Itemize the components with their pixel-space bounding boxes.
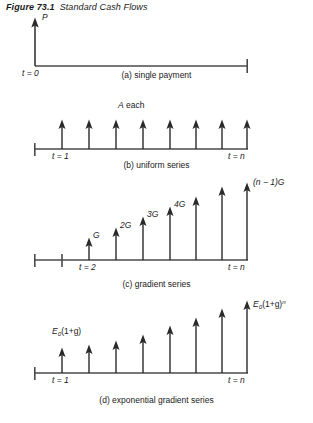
cashflow-arrows-uniform [59, 120, 251, 150]
cashflow-diagram-d [0, 296, 313, 386]
cashflow-diagram-a [0, 14, 313, 76]
figure-name: Standard Cash Flows [60, 2, 148, 12]
label-n-minus-1-G: (n − 1)G [253, 177, 284, 187]
label-4G: 4G [174, 199, 185, 209]
cashflow-diagram-c [0, 180, 313, 272]
caption-a: (a) single payment [0, 70, 313, 80]
label-3G: 3G [147, 209, 158, 219]
time-label-start-d: t = 1 [52, 375, 69, 385]
figure-container: Figure 73.1Standard Cash Flows P t = 0 (… [0, 0, 313, 423]
cashflow-diagram-b [0, 104, 313, 160]
caption-b: (b) uniform series [0, 160, 313, 170]
caption-c: (c) gradient series [0, 279, 313, 289]
label-E0-1-plus-g: E0(1+g) [52, 326, 81, 336]
label-2G: 2G [120, 220, 131, 230]
panel-exponential-gradient-series: E0(1+g) E0(1+g)n t = 1 t = n [0, 296, 313, 386]
time-label-end-d: t = n [228, 375, 245, 385]
figure-title: Figure 73.1Standard Cash Flows [6, 2, 148, 12]
figure-number: Figure 73.1 [6, 2, 55, 12]
label-P: P [42, 12, 48, 22]
label-G: G [93, 230, 100, 240]
time-label-start-c: t = 2 [79, 262, 96, 272]
label-E0-1-plus-g-n: E0(1+g)n [253, 299, 286, 309]
panel-gradient-series: G 2G 3G 4G (n − 1)G t = 2 t = n [0, 180, 313, 272]
time-label-end-c: t = n [228, 262, 245, 272]
cashflow-arrows-exponential [59, 301, 251, 374]
caption-d: (d) exponential gradient series [0, 395, 313, 405]
label-A-each: A each [118, 100, 144, 110]
panel-uniform-series: A each t = 1 t = n [0, 104, 313, 160]
cashflow-arrows-gradient [86, 183, 251, 261]
panel-single-payment: P t = 0 [0, 14, 313, 76]
